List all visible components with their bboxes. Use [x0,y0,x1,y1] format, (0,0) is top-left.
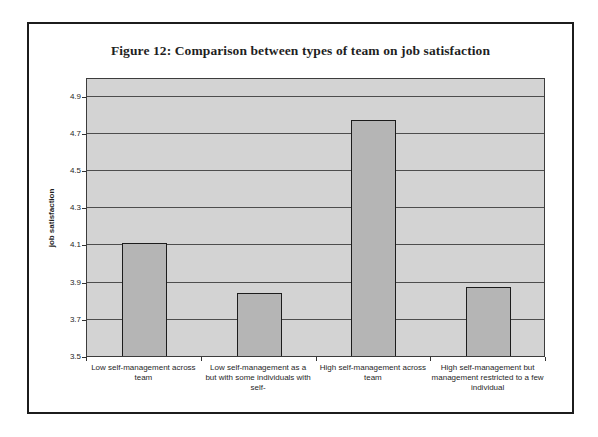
category-label: Low self-management as a but with some i… [197,363,320,393]
y-tick-label: 4.5 [55,166,81,176]
category-label: High self-management but management rest… [426,363,549,393]
y-tick-label: 4.9 [55,92,81,102]
x-tick-mark [316,357,317,361]
y-tick-mark [82,171,86,172]
y-tick-mark [82,97,86,98]
x-tick-mark [86,357,87,361]
y-tick-mark [82,320,86,321]
y-tick-label: 4.3 [55,203,81,213]
x-tick-mark [430,357,431,361]
category-label: High self-management across team [312,363,435,383]
y-tick-mark [82,208,86,209]
y-tick-label: 3.9 [55,278,81,288]
x-tick-mark [545,357,546,361]
y-tick-mark [82,245,86,246]
y-tick-label: 3.5 [55,352,81,362]
y-tick-label: 3.7 [55,315,81,325]
y-tick-label: 4.7 [55,129,81,139]
axis-layer: 3.53.73.94.14.34.54.74.9Low self-managem… [29,24,572,412]
figure-border-box: Figure 12: Comparison between types of t… [27,22,574,414]
y-tick-mark [82,134,86,135]
y-tick-label: 4.1 [55,240,81,250]
category-label: Low self-management across team [82,363,205,383]
y-tick-mark [82,283,86,284]
document-page: Figure 12: Comparison between types of t… [0,0,598,437]
x-tick-mark [201,357,202,361]
